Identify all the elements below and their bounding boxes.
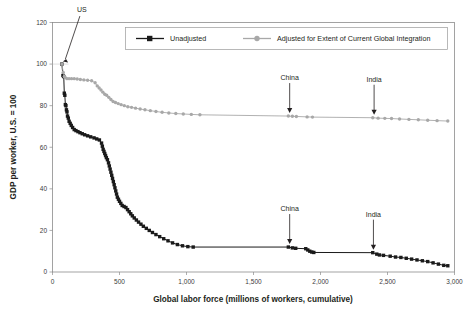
data-point — [417, 118, 420, 121]
legend-label-adjusted: Adjusted for Extent of Current Global In… — [277, 34, 430, 43]
annotation-arrowhead — [287, 108, 292, 113]
data-point — [93, 81, 96, 84]
annotation-arrowhead — [372, 110, 377, 115]
data-point — [112, 180, 115, 183]
annotation-label: US — [77, 6, 87, 13]
data-point — [108, 164, 111, 167]
data-point — [151, 231, 154, 234]
legend-marker-adjusted — [254, 36, 259, 41]
data-point — [62, 71, 65, 74]
data-point — [394, 255, 397, 258]
data-point — [181, 244, 184, 247]
series-adjusted — [60, 62, 449, 122]
x-tick-label: 2,500 — [379, 278, 396, 285]
annotation-india-adjusted: India — [367, 76, 382, 115]
series-unadjusted — [60, 62, 449, 267]
data-point — [390, 117, 393, 120]
series-line — [62, 64, 448, 121]
data-point — [148, 229, 151, 232]
data-point — [113, 186, 116, 189]
data-point — [398, 117, 401, 120]
plot-frame — [53, 23, 455, 273]
data-point — [89, 135, 92, 138]
data-point — [421, 259, 424, 262]
data-point — [442, 264, 445, 267]
y-tick-label: 120 — [36, 19, 47, 26]
data-point — [426, 119, 429, 122]
data-point — [142, 225, 145, 228]
data-point — [446, 119, 449, 122]
y-axis-title: GDP per worker, U.S. = 100 — [9, 94, 18, 199]
data-point — [138, 107, 141, 110]
data-point — [399, 256, 402, 259]
data-point — [73, 77, 76, 80]
data-point — [294, 247, 297, 250]
data-point — [371, 116, 374, 119]
legend-label-unadjusted: Unadjusted — [170, 34, 206, 43]
y-tick-label: 20 — [40, 227, 48, 234]
chart-svg: 020406080100120 05001,0001,5002,0002,500… — [0, 0, 475, 317]
data-point — [86, 79, 89, 82]
data-point — [291, 115, 294, 118]
data-point — [90, 79, 93, 82]
data-point — [198, 113, 201, 116]
data-point — [407, 118, 410, 121]
data-point — [160, 111, 163, 114]
annotation-label: China — [281, 74, 299, 81]
y-tick-label: 40 — [40, 185, 48, 192]
data-point — [109, 171, 112, 174]
data-point — [126, 105, 129, 108]
data-point — [79, 78, 82, 81]
data-point — [65, 110, 68, 113]
x-axis-title: Global labor force (millions of workers,… — [153, 295, 353, 304]
data-point — [305, 115, 308, 118]
data-point — [291, 246, 294, 249]
series-layer — [60, 62, 449, 267]
data-point — [176, 243, 179, 246]
chart-legend: Unadjusted Adjusted for Extent of Curren… — [126, 28, 448, 50]
data-point — [383, 117, 386, 120]
annotation-china-unadjusted: China — [281, 205, 299, 244]
annotation-us: US — [63, 6, 87, 63]
data-point — [110, 174, 113, 177]
data-point — [98, 138, 101, 141]
data-point — [86, 134, 89, 137]
annotation-arrowhead — [63, 59, 68, 63]
annotation-arrowhead — [371, 245, 376, 250]
data-point — [174, 112, 177, 115]
data-point — [111, 177, 114, 180]
annotation-label: India — [366, 211, 381, 218]
data-point — [192, 245, 195, 248]
data-point — [166, 239, 169, 242]
data-point — [311, 115, 314, 118]
data-point — [431, 261, 434, 264]
chart-figure: 020406080100120 05001,0001,5002,0002,500… — [0, 0, 475, 317]
x-tick-label: 500 — [114, 278, 125, 285]
data-point — [410, 257, 413, 260]
data-point — [171, 241, 174, 244]
data-point — [116, 102, 119, 105]
data-point — [435, 119, 438, 122]
y-tick-label: 60 — [40, 144, 48, 151]
data-point — [60, 62, 63, 65]
data-point — [158, 235, 161, 238]
data-point — [426, 260, 429, 263]
data-point — [312, 251, 315, 254]
x-tick-label: 0 — [51, 278, 55, 285]
data-point — [115, 192, 118, 195]
legend-marker-unadjusted — [147, 36, 152, 41]
y-axis-ticks: 020406080100120 — [36, 19, 52, 276]
data-point — [154, 233, 157, 236]
data-point — [437, 262, 440, 265]
data-point — [182, 112, 185, 115]
data-point — [382, 254, 385, 257]
y-tick-label: 100 — [36, 60, 47, 67]
data-point — [83, 133, 86, 136]
x-axis-ticks: 05001,0001,5002,0002,5003,000 — [51, 272, 463, 285]
x-tick-label: 1,500 — [245, 278, 262, 285]
y-tick-label: 0 — [43, 268, 47, 275]
data-point — [145, 227, 148, 230]
data-point — [415, 258, 418, 261]
data-point — [295, 115, 298, 118]
data-point — [162, 237, 165, 240]
